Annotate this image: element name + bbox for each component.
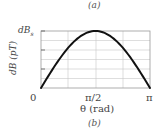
grid-lines	[41, 31, 150, 88]
x-tick-pi: π	[146, 92, 153, 103]
x-tick-0: 0	[30, 92, 36, 103]
plot-area	[0, 0, 163, 137]
y-axis-label: dB (pT)	[8, 35, 18, 81]
bottom-caption: (b)	[88, 118, 101, 128]
x-axis-label: θ (rad)	[80, 103, 114, 114]
y-top-tick-label: dBs	[18, 25, 33, 37]
x-tick-pi-half: π/2	[85, 92, 101, 103]
